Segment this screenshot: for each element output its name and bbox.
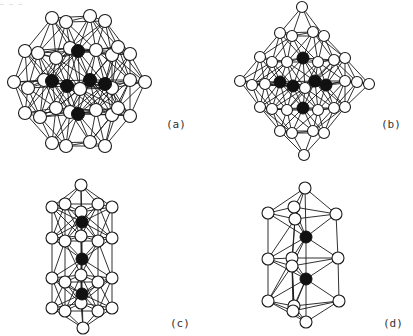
atom-black: [297, 102, 309, 114]
atom-white: [299, 150, 310, 161]
atom-white: [92, 235, 104, 247]
atom-white: [289, 213, 301, 225]
atom-white: [300, 83, 311, 94]
atom-white: [299, 182, 311, 194]
atom-white: [22, 82, 35, 95]
atom-white: [46, 12, 59, 25]
atom-white: [106, 201, 118, 213]
atom-white: [50, 52, 63, 65]
atom-white: [288, 201, 300, 213]
atom-white: [59, 305, 71, 317]
atom-white: [106, 232, 118, 244]
atom-white: [340, 76, 351, 87]
atom-white: [112, 41, 125, 54]
atom-black: [72, 108, 85, 121]
atom-white: [84, 10, 97, 23]
atom-white: [313, 105, 324, 116]
atom-white: [59, 235, 71, 247]
bond-line: [305, 188, 306, 237]
atom-white: [287, 128, 298, 139]
atom-white: [340, 53, 351, 64]
atom-white: [84, 136, 97, 149]
atom-white: [92, 276, 104, 288]
atom-black: [320, 79, 332, 91]
atom-white: [124, 74, 137, 87]
atom-white: [59, 276, 71, 288]
atom-white: [46, 201, 58, 213]
atom-white: [75, 269, 87, 281]
panel-d-cluster: [262, 182, 345, 328]
cut-off-caption-text: — — —: [0, 0, 23, 7]
atom-white: [255, 52, 266, 63]
atom-white: [319, 128, 330, 139]
atom-white: [313, 57, 324, 68]
atom-white: [235, 76, 246, 87]
cluster-structures-figure: — — — (a) (b) (c) (d): [0, 0, 413, 336]
atom-white: [75, 179, 87, 191]
atom-white: [74, 83, 87, 96]
atom-white: [92, 198, 104, 210]
atom-black: [274, 76, 286, 88]
atom-white: [124, 110, 137, 123]
atom-black: [309, 75, 321, 87]
atom-white: [297, 2, 308, 13]
atom-black: [300, 273, 312, 285]
atom-white: [106, 302, 118, 314]
atom-white: [308, 126, 319, 137]
atom-white: [287, 31, 298, 42]
atom-white: [287, 305, 299, 317]
atom-white: [8, 76, 21, 89]
atom-white: [59, 198, 71, 210]
bond-line: [336, 214, 338, 258]
atom-white: [282, 57, 293, 68]
atom-white: [106, 272, 118, 284]
atom-white: [352, 77, 363, 88]
atom-white: [247, 80, 258, 91]
atom-white: [46, 302, 58, 314]
panel-label-a: (a): [166, 118, 186, 131]
atom-white: [46, 232, 58, 244]
atom-black: [287, 80, 299, 92]
atom-white: [50, 102, 63, 115]
panel-b-cluster: [235, 2, 375, 161]
atom-black: [76, 253, 88, 265]
panel-label-b: (b): [381, 118, 401, 131]
panel-label-c: (c): [170, 317, 190, 330]
atom-white: [329, 103, 340, 114]
atom-white: [275, 28, 286, 39]
atom-white: [333, 295, 345, 307]
atom-white: [262, 253, 274, 265]
atom-white: [262, 295, 274, 307]
atom-white: [282, 105, 293, 116]
atom-white: [286, 260, 298, 272]
atom-black: [84, 74, 97, 87]
atom-white: [260, 79, 271, 90]
atom-white: [32, 47, 45, 60]
atom-white: [300, 316, 312, 328]
atom-white: [112, 102, 125, 115]
atom-black: [300, 231, 312, 243]
atom-white: [139, 76, 152, 89]
atom-black: [297, 52, 309, 64]
atom-white: [267, 57, 278, 68]
atom-white: [330, 208, 342, 220]
atom-black: [46, 75, 59, 88]
atom-white: [60, 140, 73, 153]
cluster-diagrams-svg: [0, 0, 413, 336]
atom-white: [255, 102, 266, 113]
atom-white: [46, 272, 58, 284]
atom-white: [329, 55, 340, 66]
atom-white: [90, 104, 103, 117]
atom-white: [319, 31, 330, 42]
panel-label-d: (d): [383, 317, 403, 330]
atom-black: [99, 78, 112, 91]
panel-a-cluster: [8, 10, 152, 153]
atom-white: [262, 207, 274, 219]
atom-white: [90, 44, 103, 57]
atom-white: [267, 104, 278, 115]
atom-white: [60, 16, 73, 29]
atom-white: [19, 107, 32, 120]
atom-white: [308, 27, 319, 38]
atom-white: [77, 322, 89, 334]
atom-black: [61, 80, 74, 93]
